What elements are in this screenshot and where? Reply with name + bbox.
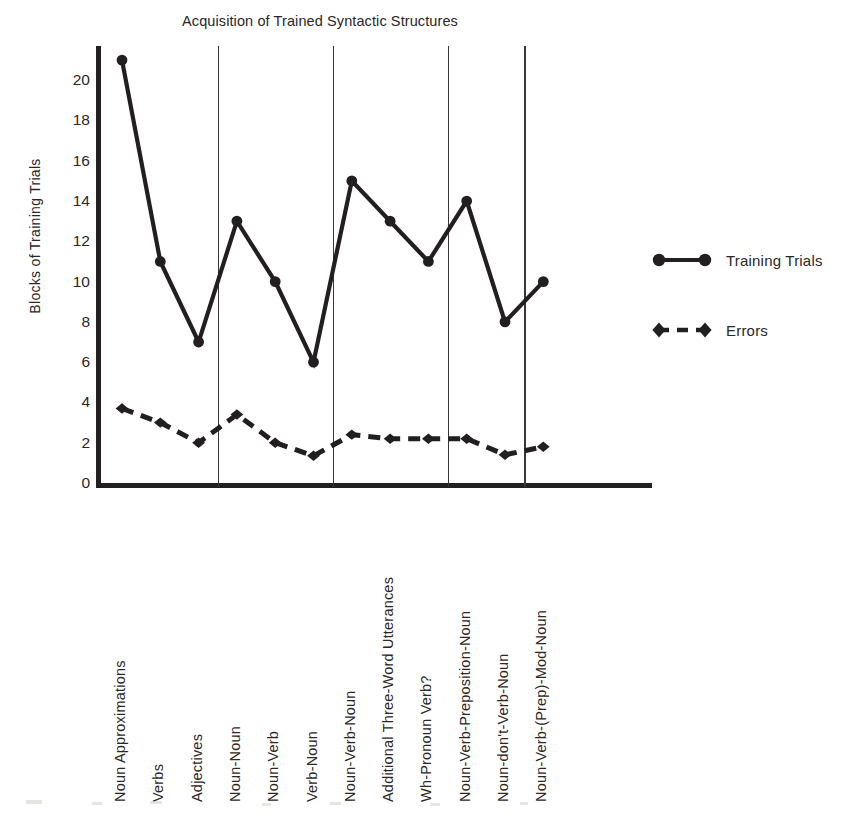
y-tick-label: 8: [56, 314, 90, 330]
y-tick-label: 20: [56, 72, 90, 88]
y-tick-label: 0: [56, 475, 90, 491]
series-training-trials: [117, 55, 549, 368]
scan-artifact: [330, 802, 341, 805]
legend-label-errors: Errors: [726, 322, 768, 339]
x-category-label: Noun-Verb-Preposition-Noun: [457, 611, 473, 802]
x-category-label: Additional Three-Word Utterances: [380, 577, 396, 802]
data-point-circle: [232, 216, 243, 227]
data-point-circle: [538, 276, 549, 287]
scan-artifact: [520, 802, 528, 805]
data-point-diamond: [422, 433, 435, 443]
scan-artifact: [26, 800, 42, 804]
data-point-diamond: [345, 429, 358, 439]
legend-entry-errors: Errors: [652, 313, 852, 347]
chart-title: Acquisition of Trained Syntactic Structu…: [0, 13, 640, 29]
x-category-label: Verbs: [150, 764, 166, 802]
data-point-diamond: [537, 442, 550, 452]
data-point-circle: [308, 357, 319, 368]
x-category-label: Noun-Verb: [265, 731, 281, 802]
x-category-label: Noun-Verb-Noun: [342, 690, 358, 802]
dashed-line-diamond-marker-icon: [652, 319, 712, 341]
x-category-label: Noun Approximations: [112, 660, 128, 802]
data-point-circle: [461, 196, 472, 207]
x-axis-category-labels: Noun ApproximationsVerbsAdjectivesNoun-N…: [96, 488, 656, 820]
legend-entry-training-trials: Training Trials: [652, 243, 852, 277]
y-tick-label: 10: [56, 274, 90, 290]
x-category-label: Wh-Pronoun Verb?: [418, 675, 434, 802]
y-tick-label: 6: [56, 354, 90, 370]
series-errors: [116, 403, 550, 461]
chart-legend: Training Trials Errors: [652, 243, 852, 383]
scan-artifact: [92, 802, 102, 805]
x-category-label: Noun-don't-Verb-Noun: [495, 653, 511, 802]
y-tick-label: 4: [56, 394, 90, 410]
data-point-circle: [500, 316, 511, 327]
plot-area: [96, 46, 652, 488]
scan-artifact: [430, 803, 440, 806]
series-line: [122, 408, 543, 455]
data-point-diamond: [384, 433, 397, 443]
x-category-label: Noun-Noun: [227, 726, 243, 802]
x-category-label: Verb-Noun: [304, 731, 320, 802]
x-category-label: Noun-Verb-(Prep)-Mod-Noun: [533, 610, 549, 802]
chart-figure: Acquisition of Trained Syntactic Structu…: [0, 0, 856, 820]
data-point-circle: [193, 337, 204, 348]
y-tick-label: 18: [56, 112, 90, 128]
data-point-circle: [155, 256, 166, 267]
y-tick-label: 16: [56, 153, 90, 169]
y-tick-label: 12: [56, 233, 90, 249]
series-plot: [96, 46, 652, 488]
data-point-diamond: [499, 450, 512, 460]
data-point-circle: [423, 256, 434, 267]
scan-artifact: [262, 803, 271, 806]
data-point-circle: [385, 216, 396, 227]
data-point-circle: [270, 276, 281, 287]
legend-label-training-trials: Training Trials: [726, 252, 823, 269]
y-tick-label: 14: [56, 193, 90, 209]
y-axis-tick-labels: 02468101214161820: [50, 46, 90, 488]
data-point-circle: [346, 176, 357, 187]
y-axis-title: Blocks of Training Trials: [27, 126, 43, 346]
data-point-circle: [117, 55, 128, 66]
x-category-label: Adjectives: [189, 734, 205, 802]
series-line: [122, 60, 543, 362]
y-tick-label: 2: [56, 435, 90, 451]
scan-artifact: [150, 801, 162, 804]
solid-line-circle-marker-icon: [652, 249, 712, 271]
